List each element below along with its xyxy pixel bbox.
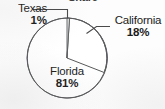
pie-label-texas: Texas 1% xyxy=(1,3,47,26)
pie-label-florida-name: Florida xyxy=(41,66,93,78)
pie-label-texas-value: 1% xyxy=(1,15,47,27)
pie-label-california: California 18% xyxy=(111,15,165,38)
pie-label-florida: Florida 81% xyxy=(41,66,93,89)
pie-label-florida-value: 81% xyxy=(41,78,93,90)
pie-label-texas-name: Texas xyxy=(1,3,47,15)
pie-label-california-value: 18% xyxy=(111,27,165,39)
pie-label-california-name: California xyxy=(111,15,165,27)
pie-chart-figure: Share Texas 1% California 18% Florida 81… xyxy=(0,0,165,109)
